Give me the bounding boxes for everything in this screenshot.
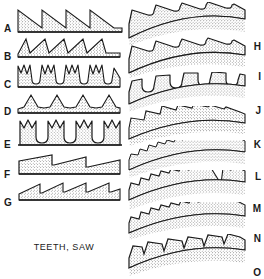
saw-teeth-diagram-g — [16, 180, 124, 208]
figure-label-e: E — [4, 140, 11, 150]
saw-teeth-diagram-f — [16, 152, 124, 180]
saw-teeth-diagram-c — [16, 62, 124, 92]
figure-label-a: A — [4, 24, 11, 34]
figure-label-b: B — [4, 52, 11, 62]
figure-label-h: H — [254, 42, 261, 52]
figure-label-n: N — [254, 234, 261, 244]
figure-label-f: F — [4, 170, 10, 180]
saw-teeth-diagram-a — [16, 6, 124, 36]
saw-teeth-diagram-b — [16, 36, 124, 63]
right-column-curved-blades: H I — [128, 0, 264, 279]
illustration-plate: A B — [0, 0, 264, 279]
saw-teeth-diagram-o — [128, 234, 248, 276]
saw-teeth-diagram-e — [16, 118, 124, 151]
figure-label-k: K — [254, 140, 261, 150]
figure-label-m: M — [253, 204, 261, 214]
plate-caption: TEETH, SAW — [0, 242, 128, 252]
figure-label-l: L — [255, 172, 261, 182]
figure-label-o: O — [253, 268, 261, 278]
figure-label-g: G — [4, 198, 12, 208]
saw-teeth-diagram-d — [16, 92, 124, 119]
figure-label-i: I — [258, 72, 261, 82]
left-column-straight-blades: A B — [0, 0, 128, 232]
figure-label-d: D — [4, 107, 11, 117]
figure-label-c: C — [4, 80, 11, 90]
figure-label-j: J — [255, 106, 261, 116]
